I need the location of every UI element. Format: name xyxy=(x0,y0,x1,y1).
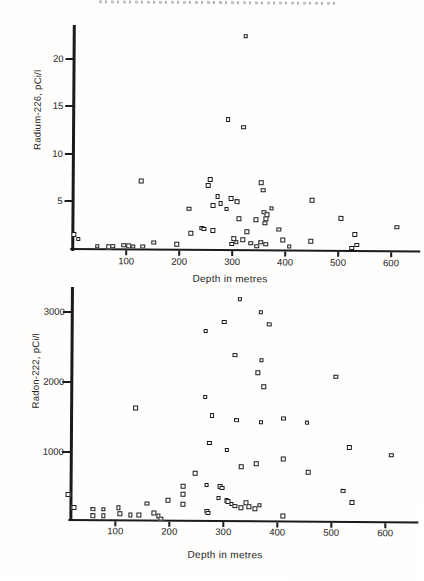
data-point xyxy=(166,498,171,503)
data-point xyxy=(239,506,244,511)
data-point xyxy=(341,488,346,493)
data-point xyxy=(222,320,227,325)
data-point xyxy=(72,505,77,510)
data-point xyxy=(256,371,261,376)
data-point xyxy=(259,358,264,363)
data-point xyxy=(305,420,310,425)
data-point xyxy=(204,483,209,488)
data-point xyxy=(91,513,96,518)
data-point xyxy=(262,384,267,389)
data-point xyxy=(181,492,186,497)
data-point xyxy=(259,420,264,425)
data-point xyxy=(101,507,106,512)
data-point xyxy=(234,418,239,423)
data-point xyxy=(389,453,394,458)
data-point xyxy=(350,500,355,505)
data-point xyxy=(254,462,259,467)
scanned-figure-page: Radium-226, pCi/l Depth in metres 510152… xyxy=(0,0,424,581)
data-point xyxy=(237,297,242,302)
data-point xyxy=(306,470,311,475)
data-point xyxy=(128,513,133,518)
x-axis-line xyxy=(68,519,418,524)
data-point xyxy=(257,503,262,508)
data-point xyxy=(224,448,229,453)
data-point xyxy=(206,511,211,516)
data-point xyxy=(207,441,212,446)
data-point xyxy=(159,516,164,521)
data-point xyxy=(116,506,121,511)
data-point xyxy=(247,505,252,510)
x-tick-label: 300 xyxy=(208,527,238,537)
data-point xyxy=(334,374,339,379)
radon-222-scatter-chart: Radon-222, pCi/l Depth in metres 1000200… xyxy=(0,0,424,581)
data-point xyxy=(210,413,215,418)
data-point xyxy=(281,514,286,519)
data-point xyxy=(347,445,352,450)
data-point xyxy=(267,322,272,327)
data-point xyxy=(181,502,186,507)
data-point xyxy=(181,484,186,489)
data-point xyxy=(233,504,238,509)
x-tick-label: 600 xyxy=(370,528,400,538)
data-point xyxy=(233,353,238,358)
y-tick-label: 2000 xyxy=(26,377,64,387)
data-point xyxy=(118,512,123,517)
data-point xyxy=(220,486,225,491)
data-point xyxy=(216,496,221,501)
data-point xyxy=(193,471,198,476)
x-tick-label: 400 xyxy=(262,527,292,537)
data-point xyxy=(101,513,106,518)
y-tick-label: 1000 xyxy=(26,447,64,457)
data-point xyxy=(239,465,244,470)
y-tick-label: 3000 xyxy=(27,307,65,317)
data-point xyxy=(203,328,208,333)
x-tick-label: 100 xyxy=(100,526,130,536)
plot-area: 100020003000100200300400500600 xyxy=(1,0,424,2)
y-axis-line xyxy=(69,287,74,521)
data-point xyxy=(203,394,208,399)
x-axis-title: Depth in metres xyxy=(188,549,263,561)
y-axis-title: Radon-222, pCi/l xyxy=(30,333,42,408)
data-point xyxy=(137,513,142,518)
data-point xyxy=(281,416,286,421)
x-tick-label: 500 xyxy=(316,528,346,538)
data-point xyxy=(133,406,138,411)
data-point xyxy=(145,501,150,506)
data-point xyxy=(91,507,96,512)
data-point xyxy=(258,310,263,315)
data-point xyxy=(281,457,286,462)
x-tick-label: 200 xyxy=(154,527,184,537)
data-point xyxy=(66,492,71,497)
